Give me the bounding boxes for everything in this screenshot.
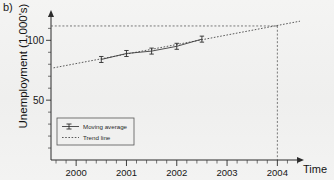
x-tick-label: 2000 bbox=[66, 167, 87, 178]
y-axis bbox=[48, 10, 54, 160]
y-tick-label: 100 bbox=[27, 35, 44, 46]
legend: Moving average Trend line bbox=[57, 118, 134, 145]
legend-label-trend-line: Trend line bbox=[83, 134, 111, 141]
x-tick-label: 2004 bbox=[267, 167, 288, 178]
y-axis-ticks: 50100 bbox=[27, 16, 51, 148]
x-axis-ticks: 20002001200220032004 bbox=[56, 160, 297, 178]
x-tick-label: 2002 bbox=[166, 167, 187, 178]
moving-average-markers bbox=[99, 36, 204, 62]
legend-label-moving-average: Moving average bbox=[83, 123, 128, 130]
x-axis-arrow-icon bbox=[297, 157, 304, 163]
y-axis-arrow-icon bbox=[48, 10, 54, 17]
x-tick-label: 2003 bbox=[216, 167, 237, 178]
x-axis bbox=[51, 157, 304, 163]
x-tick-label: 2001 bbox=[116, 167, 137, 178]
unemployment-forecast-figure: b) Unemployment (1,000's) Time 50100 200… bbox=[0, 0, 334, 180]
plot-area: 50100 20002001200220032004 Moving averag… bbox=[0, 0, 334, 180]
y-tick-label: 50 bbox=[33, 95, 45, 106]
